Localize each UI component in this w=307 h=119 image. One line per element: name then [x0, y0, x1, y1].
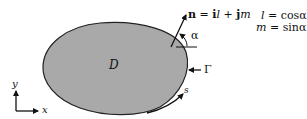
direction-cosine-m: m = sinα	[256, 22, 306, 33]
normal-plus: +	[220, 8, 236, 21]
arc-length-label: s	[184, 86, 189, 95]
region-label: D	[109, 59, 119, 71]
y-axis-label: y	[12, 79, 18, 89]
normal-eq: =	[196, 8, 212, 21]
sin-lhs: m	[256, 21, 266, 34]
angle-label: α	[191, 30, 198, 41]
boundary-label: Γ	[204, 64, 212, 75]
x-axis-label: x	[42, 105, 48, 115]
normal-m: m	[240, 8, 250, 21]
normal-n: n	[188, 8, 196, 21]
sin-rhs: = sinα	[266, 21, 306, 34]
normal-equation: n = il + jm	[188, 9, 251, 20]
direction-cosine-l: l = cosα	[261, 10, 307, 21]
